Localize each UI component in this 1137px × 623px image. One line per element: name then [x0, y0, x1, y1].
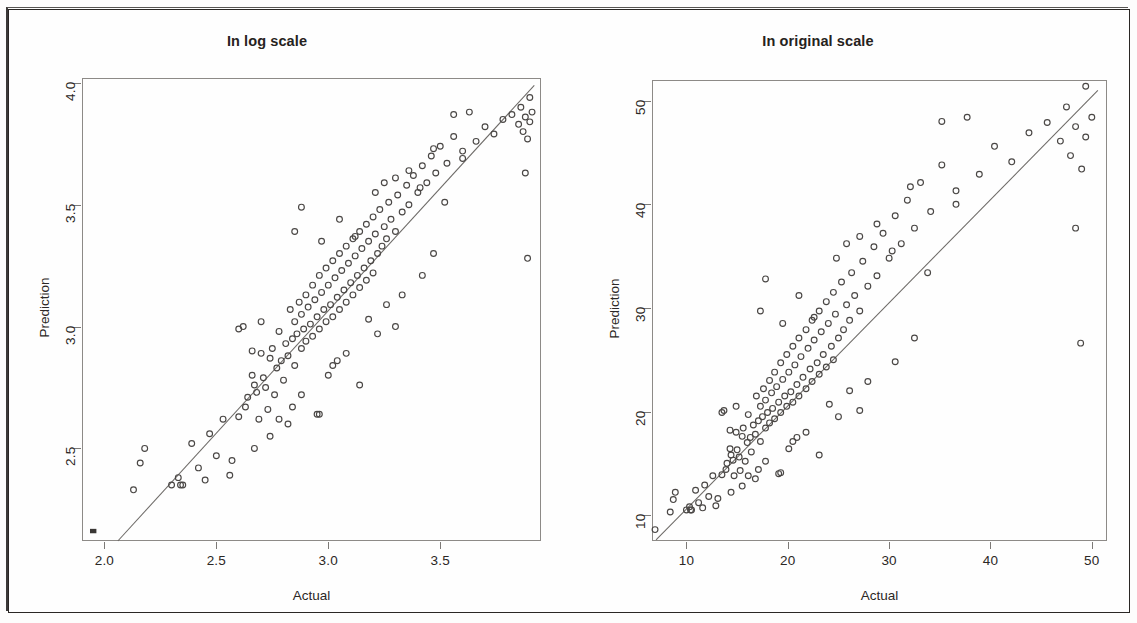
data-point	[267, 355, 273, 361]
data-point	[1083, 83, 1089, 89]
data-point	[372, 190, 378, 196]
x-tick-label: 30	[859, 553, 919, 568]
data-point	[451, 112, 457, 118]
data-point	[442, 199, 448, 205]
data-point	[267, 433, 273, 439]
data-point	[393, 229, 399, 235]
data-point	[330, 363, 336, 369]
data-point	[334, 358, 340, 364]
data-point	[258, 350, 264, 356]
data-point	[281, 377, 287, 383]
data-point	[765, 410, 771, 416]
data-point	[343, 299, 349, 305]
x-tick-mark	[990, 542, 991, 549]
data-point	[256, 416, 262, 422]
data-point	[756, 467, 762, 473]
data-point	[366, 316, 372, 322]
y-axis-title-log: Prediction	[37, 247, 52, 367]
data-point	[774, 384, 780, 390]
data-point	[758, 439, 764, 445]
data-point	[780, 321, 786, 327]
data-point	[776, 399, 782, 405]
data-point	[381, 180, 387, 186]
data-point	[849, 270, 855, 276]
data-point	[207, 431, 213, 437]
data-point	[767, 378, 773, 384]
data-point	[299, 346, 305, 352]
data-point	[786, 369, 792, 375]
y-tick-label: 3.5	[63, 203, 78, 263]
data-point	[202, 477, 208, 483]
data-point	[520, 129, 526, 135]
data-point	[925, 270, 931, 276]
data-point	[1073, 225, 1079, 231]
data-point	[880, 230, 886, 236]
data-point	[292, 319, 298, 325]
data-point	[229, 458, 235, 464]
data-point	[310, 333, 316, 339]
data-point	[337, 251, 343, 257]
data-point	[874, 221, 880, 227]
data-point	[953, 188, 959, 194]
data-point	[227, 472, 233, 478]
data-point	[386, 199, 392, 205]
data-point	[814, 360, 820, 366]
data-point	[482, 124, 488, 130]
data-point	[395, 192, 401, 198]
data-point	[800, 374, 806, 380]
y-tick-label: 3.0	[63, 325, 78, 385]
data-point	[343, 243, 349, 249]
data-point	[518, 104, 524, 110]
data-point	[243, 404, 249, 410]
data-point	[811, 337, 817, 343]
data-point	[319, 238, 325, 244]
data-point	[294, 331, 300, 337]
data-point	[316, 326, 322, 332]
data-point	[312, 297, 318, 303]
data-point	[274, 365, 280, 371]
data-point	[898, 241, 904, 247]
data-point	[325, 282, 331, 288]
data-point	[739, 483, 745, 489]
data-point	[860, 258, 866, 264]
data-point	[399, 292, 405, 298]
data-point	[1078, 340, 1084, 346]
data-point	[857, 308, 863, 314]
data-point	[334, 294, 340, 300]
data-point	[323, 319, 329, 325]
data-point	[939, 162, 945, 168]
data-point	[343, 350, 349, 356]
data-point	[285, 421, 291, 427]
data-point	[734, 447, 740, 453]
data-point	[330, 258, 336, 264]
data-point	[272, 392, 278, 398]
data-point	[693, 487, 699, 493]
data-point	[258, 319, 264, 325]
data-point	[816, 452, 822, 458]
data-point	[428, 153, 434, 159]
data-point	[865, 379, 871, 385]
data-point	[833, 311, 839, 317]
x-tick-label: 3.0	[298, 553, 358, 568]
data-point	[310, 282, 316, 288]
x-tick-label: 2.0	[74, 553, 134, 568]
data-point	[372, 231, 378, 237]
data-point	[375, 251, 381, 257]
data-point	[410, 173, 416, 179]
x-tick-mark	[328, 542, 329, 549]
data-point	[928, 209, 934, 215]
data-point	[737, 468, 743, 474]
data-point	[908, 184, 914, 190]
data-point	[305, 304, 311, 310]
data-point	[763, 397, 769, 403]
data-point	[276, 329, 282, 335]
data-point	[750, 422, 756, 428]
data-point	[847, 317, 853, 323]
data-point	[857, 234, 863, 240]
y-tick-label: 20	[633, 410, 648, 470]
data-point	[865, 283, 871, 289]
data-point	[892, 213, 898, 219]
data-point	[90, 529, 96, 533]
data-point	[287, 307, 293, 313]
x-tick-label: 50	[1062, 553, 1122, 568]
